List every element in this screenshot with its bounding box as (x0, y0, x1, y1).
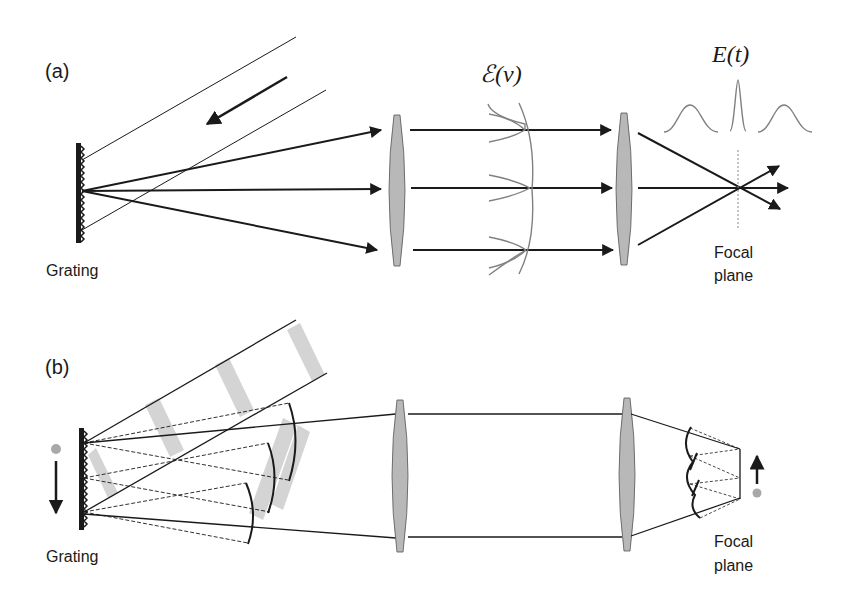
moving-point-dot (753, 489, 762, 498)
panel-a: (a) Grating ℰ(ν) (45, 37, 812, 284)
incident-beam-edge (84, 320, 296, 443)
incident-direction-arrow-icon (207, 77, 287, 124)
panel-b-label: (b) (45, 356, 69, 378)
time-domain-label: E(t) (711, 41, 749, 67)
focal-wavefronts (686, 427, 700, 518)
diffracted-ray (82, 189, 381, 191)
panel-b: (b) Grating (45, 320, 762, 574)
diffracted-ray (82, 191, 377, 250)
lens-b1-icon (392, 400, 408, 552)
focal-plane-b-label-1: Focal (714, 533, 753, 550)
focal-plane-b-label-2: plane (714, 557, 753, 574)
grating-a-label: Grating (46, 262, 98, 279)
grating-a-icon (76, 143, 84, 243)
incident-beam-edge (82, 37, 296, 160)
focusing-ray (638, 166, 779, 245)
lens-a1-icon (389, 115, 405, 266)
optics-diagram: (a) Grating ℰ(ν) (0, 0, 855, 595)
pulse-profiles-icon (664, 80, 812, 132)
panel-a-label: (a) (45, 60, 69, 82)
focal-plane-a-label-2: plane (714, 267, 753, 284)
focal-plane-a-label-1: Focal (714, 244, 753, 261)
lens-a2-icon (616, 113, 632, 265)
beam-edge (631, 498, 740, 536)
grating-b-label: Grating (46, 548, 98, 565)
pulse-front-bands (88, 323, 325, 520)
focusing-ray (638, 133, 780, 209)
diffracted-ray (82, 130, 381, 191)
moving-point-dot (51, 444, 61, 454)
lens-b2-icon (619, 398, 635, 551)
beam-edge (84, 514, 396, 538)
spectrum-label: ℰ(ν) (480, 61, 522, 87)
beam-edge (84, 414, 396, 443)
incident-beam-edge (82, 90, 326, 230)
